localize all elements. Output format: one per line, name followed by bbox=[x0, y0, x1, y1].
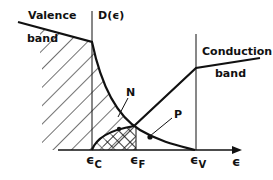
valence-band-label: band bbox=[27, 32, 58, 45]
eps-v-label: ϵV bbox=[190, 152, 206, 170]
x-axis-label: ϵ bbox=[232, 154, 240, 169]
n-label: N bbox=[126, 86, 135, 99]
p-dot bbox=[147, 134, 152, 139]
eps-c-label: ϵC bbox=[86, 152, 102, 170]
band-diagram: Valence band D(ϵ) Conduction band N P ϵ … bbox=[0, 0, 273, 180]
x-axis-arrow-icon bbox=[232, 146, 242, 154]
n-dot bbox=[117, 127, 121, 131]
p-label: P bbox=[174, 108, 182, 121]
d-eps-label: D(ϵ) bbox=[98, 9, 124, 22]
eps-f-label: ϵF bbox=[130, 152, 145, 170]
valence-label: Valence bbox=[28, 9, 76, 22]
conduction-band-label: band bbox=[215, 67, 246, 80]
conduction-label: Conduction bbox=[202, 45, 272, 58]
p-pointer bbox=[150, 118, 172, 136]
